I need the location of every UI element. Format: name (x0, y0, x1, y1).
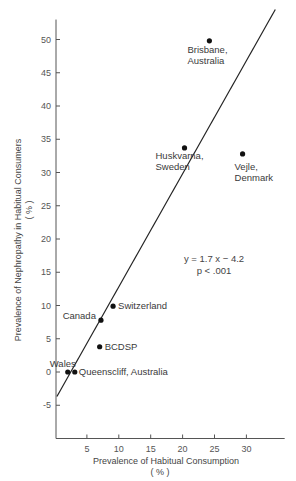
y-tick-label: 25 (41, 201, 51, 211)
y-tick-label: 30 (41, 168, 51, 178)
data-point: Queenscliff, Australia (72, 366, 168, 377)
regression-line-path (57, 10, 275, 397)
point-label: Sweden (156, 161, 190, 172)
point-label: Huskvarna, (156, 150, 204, 161)
y-tick-label: 50 (41, 35, 51, 45)
data-point: Wales (50, 358, 76, 375)
y-tick-label: 35 (41, 134, 51, 144)
regression-equation: y = 1.7 x − 4.2 (184, 253, 244, 264)
point-marker (110, 304, 115, 309)
point-label: Denmark (235, 172, 274, 183)
x-axis-unit: ( % ) (151, 467, 170, 477)
y-tick-label: -5 (43, 400, 51, 410)
y-tick-label: 40 (41, 101, 51, 111)
x-tick-label: 25 (209, 444, 219, 454)
scatter-chart: -50510152025303540455051015202530 Brisba… (0, 0, 296, 481)
y-axis-label: Prevalence of Nephropathy in Habitual Co… (13, 138, 23, 341)
point-label: Queenscliff, Australia (79, 366, 169, 377)
point-label: Wales (50, 358, 76, 369)
x-tick-label: 30 (241, 444, 251, 454)
data-point: Brisbane,Australia (187, 38, 227, 66)
data-points: Brisbane,AustraliaHuskvarna,SwedenVejle,… (50, 38, 274, 377)
point-marker (72, 369, 77, 374)
y-tick-label: 45 (41, 68, 51, 78)
point-marker (65, 369, 70, 374)
point-label: Brisbane, (187, 44, 227, 55)
y-axis-unit: ( % ) (24, 200, 34, 219)
data-point: Vejle,Denmark (235, 151, 274, 183)
data-point: Canada (63, 310, 104, 323)
point-marker (207, 38, 212, 43)
point-label: Vejle, (235, 161, 258, 172)
point-label: Australia (187, 55, 225, 66)
axis-ticks: -50510152025303540455051015202530 (41, 35, 251, 454)
data-point: Switzerland (110, 300, 167, 311)
x-tick-label: 5 (84, 444, 89, 454)
y-tick-label: 5 (46, 334, 51, 344)
x-tick-label: 10 (114, 444, 124, 454)
point-label: Canada (63, 310, 97, 321)
point-marker (98, 318, 103, 323)
x-axis-label: Prevalence of Habitual Consumption (93, 456, 239, 466)
point-marker (240, 151, 245, 156)
point-marker (97, 344, 102, 349)
data-point: Huskvarna,Sweden (156, 145, 204, 172)
point-label: Switzerland (118, 300, 167, 311)
point-label: BCDSP (105, 341, 138, 352)
p-value: p < .001 (197, 265, 232, 276)
y-tick-label: 15 (41, 267, 51, 277)
regression-line (57, 10, 275, 397)
y-tick-label: 20 (41, 234, 51, 244)
x-tick-label: 15 (146, 444, 156, 454)
x-tick-label: 20 (178, 444, 188, 454)
y-tick-label: 10 (41, 301, 51, 311)
data-point: BCDSP (97, 341, 137, 352)
